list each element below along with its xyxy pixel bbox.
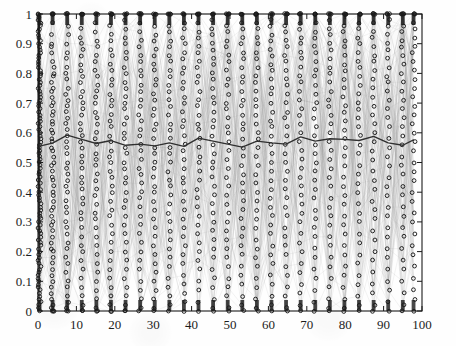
scatter-chart: 0102030405060708090100 00.10.20.30.40.50… bbox=[0, 0, 456, 346]
x-tick-label: 100 bbox=[412, 317, 432, 332]
chart-figure: 0102030405060708090100 00.10.20.30.40.50… bbox=[0, 0, 456, 346]
x-tick-label: 70 bbox=[300, 317, 313, 332]
y-tick-label: 0 bbox=[26, 304, 33, 319]
y-tick-label: 0.1 bbox=[16, 274, 32, 289]
y-tick-label: 0.9 bbox=[16, 36, 32, 51]
y-tick-label: 0.3 bbox=[16, 214, 32, 229]
y-tick-label: 0.6 bbox=[16, 125, 33, 140]
x-tick-label: 60 bbox=[262, 317, 275, 332]
x-tick-label: 80 bbox=[339, 317, 352, 332]
y-tick-label: 0.8 bbox=[16, 66, 32, 81]
y-tick-label: 0.2 bbox=[16, 244, 32, 259]
y-tick-label: 1 bbox=[26, 7, 33, 22]
y-tick-label: 0.7 bbox=[16, 96, 33, 111]
x-tick-label: 0 bbox=[35, 317, 42, 332]
x-tick-label: 10 bbox=[70, 317, 83, 332]
x-tick-label: 40 bbox=[185, 317, 198, 332]
y-tick-label: 0.5 bbox=[16, 155, 32, 170]
x-tick-label: 30 bbox=[147, 317, 160, 332]
x-tick-label: 90 bbox=[377, 317, 390, 332]
x-tick-label: 20 bbox=[108, 317, 121, 332]
y-tick-label: 0.4 bbox=[16, 185, 33, 200]
x-tick-label: 50 bbox=[224, 317, 237, 332]
